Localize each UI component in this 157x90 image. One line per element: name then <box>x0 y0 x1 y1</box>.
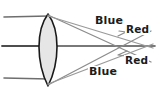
biconvex-converging-lens <box>39 14 57 86</box>
label-red-bottom: Red <box>124 55 149 66</box>
incident-ray-bottom <box>4 78 49 79</box>
label-blue-top: Blue <box>94 15 124 26</box>
chromatic-aberration-diagram: Blue Red Red Blue <box>0 0 157 90</box>
diagram-canvas <box>0 0 157 90</box>
label-red-top: Red <box>125 24 150 35</box>
label-blue-bottom: Blue <box>88 66 118 77</box>
incident-ray-top <box>4 16 49 17</box>
